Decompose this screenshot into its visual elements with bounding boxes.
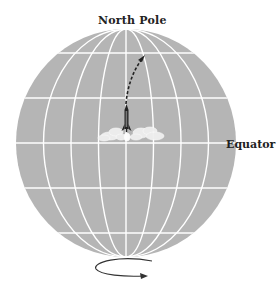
north-pole-label: North Pole — [98, 14, 167, 27]
rotation-arrow — [96, 259, 152, 277]
equator-label: Equator — [226, 138, 275, 151]
rotation-arrowhead-icon — [140, 273, 148, 279]
